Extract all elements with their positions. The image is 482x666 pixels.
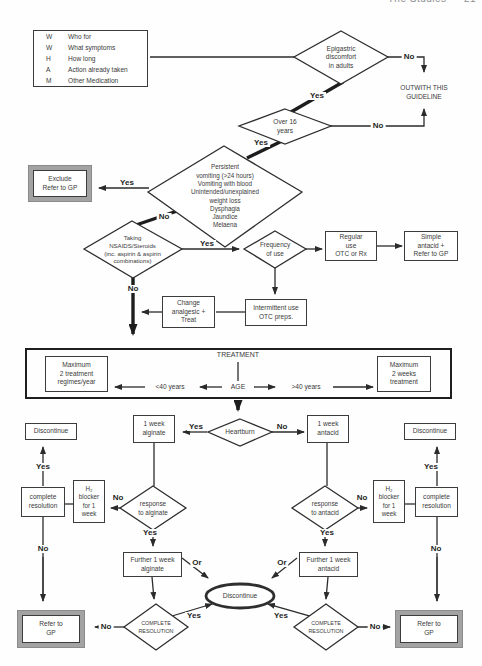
- nsaids-text: Taking NSAIDS/Steroids (inc. aspirin & a…: [84, 231, 181, 268]
- complete-resolution-left-box: complete resolution: [21, 487, 65, 517]
- label-no-response-alginate: No: [111, 494, 126, 502]
- regular-use-box: Regular use OTC or Rx: [325, 231, 377, 261]
- wwham-letter: H: [46, 53, 68, 64]
- alarm-symptoms-text: Persistent vomiting (>24 hours) Vomiting…: [158, 152, 292, 241]
- refer-gp-right-box: Refer to GP: [395, 610, 463, 648]
- label-no-epigastric: No: [402, 53, 417, 61]
- discontinue-right-box: Discontinue: [404, 423, 456, 440]
- wwham-label: How long: [68, 53, 147, 64]
- label-no-over16: No: [371, 122, 386, 130]
- outwith-guideline-text: OUTWITH THIS GUIDELINE: [390, 83, 458, 103]
- label-no-nsaids: No: [126, 285, 141, 293]
- wwham-row: MOther Medication: [46, 75, 147, 86]
- age-label: AGE: [226, 382, 250, 392]
- over16-text: Over 16 years: [253, 116, 317, 137]
- exclude-refer-gp-text: Exclude Refer to GP: [33, 170, 87, 197]
- response-alginate-text: response to alginate: [122, 499, 184, 518]
- label-yes-response-antacid: Yes: [318, 529, 336, 537]
- label-yes-resolution-left: Yes: [34, 463, 52, 471]
- refer-gp-left-text: Refer to GP: [22, 615, 80, 643]
- response-antacid-text: response to antacid: [294, 499, 356, 518]
- over-40-label: >40 years: [283, 382, 329, 392]
- thin-connector-lines: [43, 57, 437, 627]
- under-40-label: <40 years: [147, 382, 193, 392]
- heartburn-text: Heartburn: [210, 427, 270, 438]
- label-yes-resolution-right: Yes: [422, 463, 440, 471]
- discontinue-left-box: Discontinue: [25, 423, 77, 440]
- refer-gp-left-box: Refer to GP: [17, 610, 85, 648]
- wwham-letter: W: [46, 31, 68, 42]
- one-week-antacid-box: 1 week antacid: [307, 415, 349, 443]
- flowchart-page: The Studies 21: [0, 0, 482, 666]
- label-yes-complete-right: Yes: [272, 612, 290, 620]
- label-yes-complete-left: Yes: [185, 612, 203, 620]
- wwham-letter: M: [46, 75, 68, 86]
- max-weeks-box: Maximum 2 weeks treatment: [377, 356, 431, 392]
- label-no-resolution-right: No: [429, 545, 444, 553]
- complete-resolution-left-text: COMPLETE RESOLUTION: [127, 619, 185, 636]
- label-no-heartburn: No: [275, 423, 290, 431]
- max-regimes-box: Maximum 2 treatment regimes/year: [45, 356, 108, 392]
- complete-resolution-right-box: complete resolution: [415, 487, 458, 517]
- one-week-alginate-box: 1 week alginate: [133, 415, 175, 443]
- wwham-label: What symptoms: [68, 42, 147, 53]
- refer-gp-right-text: Refer to GP: [400, 615, 458, 643]
- wwham-label: Who for: [68, 31, 147, 42]
- h2-blocker-left-box: H₂ blocker for 1 week: [73, 480, 105, 523]
- label-yes-response-alginate: Yes: [141, 529, 159, 537]
- label-yes-epigastric: Yes: [308, 92, 326, 100]
- wwham-letter: W: [46, 42, 68, 53]
- wwham-letter: A: [46, 64, 68, 75]
- label-yes-exclude: Yes: [118, 179, 136, 187]
- wwham-label: Action already taken: [68, 64, 147, 75]
- wwham-row: WWhat symptoms: [46, 42, 147, 53]
- label-no-complete-left: No: [99, 623, 114, 631]
- label-yes-heartburn: Yes: [187, 423, 205, 431]
- complete-resolution-right-text: COMPLETE RESOLUTION: [297, 619, 355, 636]
- label-yes-over16: Yes: [252, 139, 270, 147]
- label-no-response-antacid: No: [355, 494, 370, 502]
- wwham-row: HHow long: [46, 53, 147, 64]
- label-or-right: Or: [275, 559, 288, 567]
- label-no-resolution-left: No: [36, 545, 51, 553]
- change-analgesic-box: Change analgesic + Treat: [162, 296, 215, 328]
- label-yes-nsaids: Yes: [198, 240, 216, 248]
- h2-blocker-right-box: H₂ blocker for 1 week: [373, 480, 405, 523]
- treatment-title: TREATMENT: [198, 350, 278, 360]
- label-no-symptoms: No: [157, 213, 172, 221]
- intermittent-use-box: Intermittent use OTC preps.: [245, 299, 307, 326]
- wwham-box: WWho for WWhat symptoms HHow long AActio…: [33, 30, 148, 87]
- wwham-row: WWho for: [46, 31, 147, 42]
- discontinue-ellipse-text: Discontinue: [206, 591, 274, 602]
- frequency-text: Frequency of use: [247, 241, 303, 258]
- wwham-row: AAction already taken: [46, 64, 147, 75]
- wwham-label: Other Medication: [68, 75, 147, 86]
- exclude-refer-gp-box: Exclude Refer to GP: [28, 165, 92, 202]
- label-no-complete-right: No: [368, 623, 383, 631]
- label-or-left: Or: [190, 559, 203, 567]
- further-antacid-box: Further 1 week antacid: [299, 552, 358, 577]
- epigastric-text: Epigastric discomfort in adults: [299, 41, 383, 74]
- simple-antacid-box: Simple antacid + Refer to GP: [404, 231, 458, 261]
- further-alginate-box: Further 1 week alginate: [123, 552, 182, 577]
